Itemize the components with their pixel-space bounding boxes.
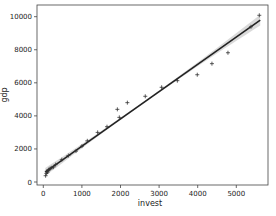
regression-line bbox=[45, 20, 260, 172]
y-tick-label: 4000 bbox=[14, 112, 32, 120]
scatter-chart: 010002000300040005000 020004000600080001… bbox=[0, 0, 276, 216]
data-point-marker bbox=[195, 73, 199, 77]
y-tick-label: 8000 bbox=[14, 46, 32, 54]
x-tick-label: 0 bbox=[41, 190, 45, 198]
x-tick-label: 5000 bbox=[227, 190, 245, 198]
x-axis-label: invest bbox=[138, 199, 162, 208]
x-tick-label: 1000 bbox=[73, 190, 91, 198]
data-point-marker bbox=[143, 94, 147, 98]
data-point-marker bbox=[210, 62, 214, 66]
y-axis-label: gdp bbox=[0, 87, 9, 102]
y-tick-label: 0 bbox=[28, 179, 32, 187]
y-tick-label: 2000 bbox=[14, 145, 32, 153]
x-tick-label: 2000 bbox=[112, 190, 130, 198]
data-point-marker bbox=[115, 107, 119, 111]
x-tick-label: 3000 bbox=[150, 190, 168, 198]
plot-frame bbox=[37, 5, 268, 185]
data-point-marker bbox=[125, 101, 129, 105]
y-tick-label: 6000 bbox=[14, 79, 32, 87]
x-axis-ticks: 010002000300040005000 bbox=[41, 185, 245, 198]
x-tick-label: 4000 bbox=[189, 190, 207, 198]
data-point-marker bbox=[226, 51, 230, 55]
y-axis-ticks: 0200040006000800010000 bbox=[10, 13, 37, 186]
y-tick-label: 10000 bbox=[10, 13, 32, 21]
